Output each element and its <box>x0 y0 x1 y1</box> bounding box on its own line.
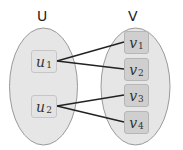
node-u1-subscript: 1 <box>46 60 52 70</box>
node-v4: v4 <box>124 111 149 134</box>
node-v4-subscript: 4 <box>138 121 144 131</box>
node-v2-label: v <box>129 62 137 78</box>
node-v3: v3 <box>124 84 149 107</box>
node-u1-label: u <box>36 54 45 70</box>
node-v1: v1 <box>124 31 149 54</box>
node-u2-subscript: 2 <box>46 105 52 115</box>
node-v3-label: v <box>129 88 137 104</box>
node-v2: v2 <box>124 58 149 81</box>
diagram-canvas <box>0 0 183 150</box>
node-u1: u1 <box>31 50 57 73</box>
set-u-ellipse <box>10 28 78 145</box>
node-v2-subscript: 2 <box>138 68 144 78</box>
node-v1-subscript: 1 <box>138 41 144 51</box>
node-u2: u2 <box>31 95 57 118</box>
node-u2-label: u <box>36 99 45 115</box>
node-v3-subscript: 3 <box>138 94 144 104</box>
node-v1-label: v <box>129 35 137 51</box>
node-v4-label: v <box>129 115 137 131</box>
